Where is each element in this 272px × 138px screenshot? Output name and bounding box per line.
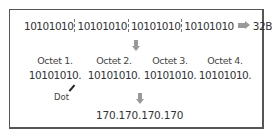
bit-length-label: 32Bit (IP)	[253, 20, 272, 32]
segment-separator	[181, 19, 183, 32]
octet-4: Octet 4. 10101010.	[195, 55, 255, 81]
binary-segment-1: 10101010	[24, 20, 73, 32]
octet-label: Octet 4.	[195, 55, 255, 66]
octet-label: Octet 3.	[140, 55, 200, 66]
octet-value: 10101010.	[84, 69, 144, 81]
octet-value: 10101010.	[25, 69, 85, 81]
octet-1: Octet 1. 10101010.	[25, 55, 85, 81]
binary-segment-3: 10101010	[131, 20, 180, 32]
octet-value: 10101010.	[140, 69, 200, 81]
dot-annotation: Dot	[54, 92, 69, 102]
binary-row: 10101010 10101010 10101010 10101010 32Bi…	[24, 19, 272, 32]
octet-2: Octet 2. 10101010.	[84, 55, 144, 81]
segment-separator	[128, 19, 130, 32]
binary-segment-4: 10101010	[184, 20, 233, 32]
arrow-down-icon	[132, 40, 140, 51]
octet-label: Octet 2.	[84, 55, 144, 66]
octet-value: 10101010.	[195, 69, 255, 81]
arrow-right-icon	[238, 22, 250, 29]
octet-3: Octet 3. 10101010.	[140, 55, 200, 81]
binary-segment-2: 10101010	[77, 20, 126, 32]
segment-separator	[74, 19, 76, 32]
decimal-ip: 170.170.170.170	[96, 109, 183, 121]
octet-label: Octet 1.	[25, 55, 85, 66]
arrow-down-icon	[136, 93, 144, 104]
